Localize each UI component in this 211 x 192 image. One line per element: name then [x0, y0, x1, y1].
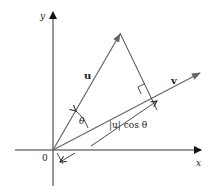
- vector-v-label: v: [170, 75, 178, 86]
- vector-projection-diagram: y x 0 u v θ |u| cos θ: [0, 0, 211, 192]
- projection-measure-line: [57, 101, 157, 164]
- origin-label: 0: [42, 153, 48, 163]
- vector-u-label: u: [84, 70, 91, 81]
- projection-length-label: |u| cos θ: [109, 120, 147, 131]
- right-angle-marker: [138, 84, 145, 95]
- y-axis-label: y: [39, 11, 46, 21]
- x-axis-label: x: [196, 158, 201, 168]
- perpendicular-line: [120, 33, 157, 110]
- angle-theta-label: θ: [79, 116, 85, 126]
